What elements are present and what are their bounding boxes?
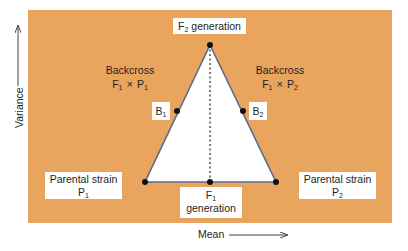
b1-prefix: B (156, 105, 163, 117)
f2-dot (207, 42, 213, 48)
backcross-right-label: Backcross F1×P2 (245, 63, 315, 91)
backcross-left-formula: F1×P1 (95, 77, 165, 91)
bl-a-sub: 1 (119, 84, 123, 91)
p2-sub: 2 (339, 192, 343, 199)
b1-label: B1 (152, 102, 170, 120)
b2-prefix: B (253, 105, 260, 117)
f1-dot (207, 179, 213, 185)
f1-sub: 1 (212, 195, 216, 202)
f2-generation-label: F2 generation (173, 18, 246, 34)
p1-sub: 1 (85, 192, 89, 199)
backcross-left-title: Backcross (95, 63, 165, 77)
backcross-left-label: Backcross F1×P1 (95, 63, 165, 91)
b2-dot (240, 108, 246, 114)
cross-symbol: × (276, 78, 282, 90)
backcross-right-formula: F1×P2 (245, 77, 315, 91)
mean-axis-label: Mean (198, 228, 224, 240)
p1-dot (142, 179, 148, 185)
p1-line1: Parental strain (45, 173, 122, 186)
f2-suffix: generation (188, 20, 241, 32)
f1-line2: generation (180, 202, 242, 215)
f1-generation-label: F1 generation (180, 187, 242, 218)
br-b-prefix: P (287, 78, 294, 90)
variance-axis-label: Variance (13, 94, 25, 128)
br-b-sub: 2 (294, 84, 298, 91)
p2-line2: P2 (299, 186, 376, 199)
cross-symbol: × (126, 78, 132, 90)
bl-b-sub: 1 (144, 84, 148, 91)
f1-line1: F1 (180, 189, 242, 202)
parental-strain-p1-label: Parental strain P1 (45, 172, 122, 199)
p1-prefix: P (78, 186, 85, 198)
bl-b-prefix: P (137, 78, 144, 90)
b1-sub: 1 (163, 111, 167, 118)
p1-line2: P1 (45, 186, 122, 199)
br-a-sub: 1 (269, 84, 273, 91)
b1-dot (174, 108, 180, 114)
p2-prefix: P (332, 186, 339, 198)
b2-label: B2 (249, 102, 267, 120)
parental-strain-p2-label: Parental strain P2 (299, 172, 376, 199)
b2-sub: 2 (260, 111, 264, 118)
backcross-right-title: Backcross (245, 63, 315, 77)
p2-dot (273, 179, 279, 185)
p2-line1: Parental strain (299, 173, 376, 186)
